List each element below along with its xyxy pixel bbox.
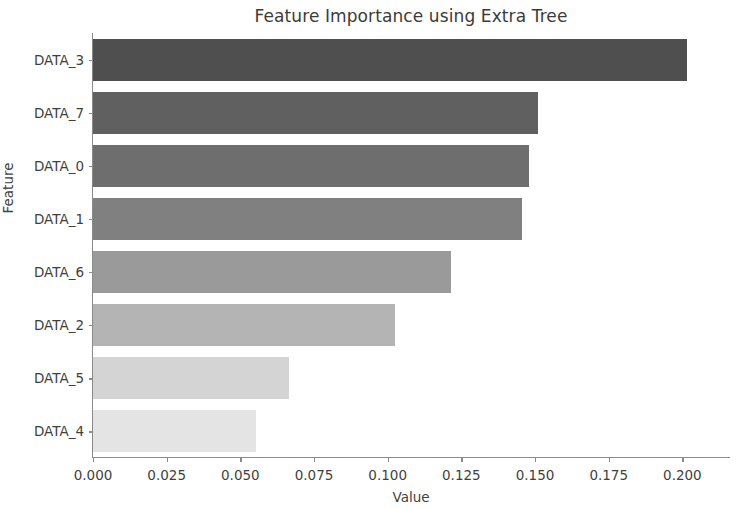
- y-tick-mark: [89, 166, 94, 167]
- x-tick-mark: [240, 457, 241, 462]
- y-tick-mark: [89, 378, 94, 379]
- x-tick-mark: [461, 457, 462, 462]
- bar-data_1: [93, 198, 522, 240]
- x-tick-mark: [93, 457, 94, 462]
- y-tick-label-data_1: DATA_1: [34, 211, 84, 227]
- bar-row: [93, 86, 730, 139]
- y-tick-mark: [89, 219, 94, 220]
- y-tick-label-data_5: DATA_5: [34, 370, 84, 386]
- x-tick-mark: [682, 457, 683, 462]
- x-tick-mark: [535, 457, 536, 462]
- y-tick-mark: [89, 272, 94, 273]
- y-axis-label-text: Feature: [0, 148, 16, 228]
- bar-data_0: [93, 145, 529, 187]
- plot-area: DATA_3DATA_7DATA_0DATA_1DATA_6DATA_2DATA…: [92, 33, 730, 458]
- y-tick-label-data_2: DATA_2: [34, 317, 84, 333]
- x-tick-mark: [609, 457, 610, 462]
- x-tick-label: 0.025: [147, 467, 186, 483]
- bar-row: [93, 246, 730, 299]
- x-tick-label: 0.175: [589, 467, 628, 483]
- bar-row: [93, 299, 730, 352]
- chart-figure: Feature Importance using Extra Tree DATA…: [0, 0, 742, 508]
- x-tick-mark: [314, 457, 315, 462]
- x-tick-label: 0.075: [295, 467, 334, 483]
- x-tick-label: 0.050: [221, 467, 260, 483]
- y-tick-mark: [89, 113, 94, 114]
- y-tick-label-data_4: DATA_4: [34, 423, 84, 439]
- bar-row: [93, 192, 730, 245]
- bar-data_2: [93, 304, 395, 346]
- y-axis-label: Feature: [0, 180, 18, 196]
- bar-data_5: [93, 357, 289, 399]
- bar-data_6: [93, 251, 451, 293]
- chart-title: Feature Importance using Extra Tree: [92, 6, 730, 26]
- bar-row: [93, 33, 730, 86]
- x-tick-mark: [167, 457, 168, 462]
- x-tick-label: 0.125: [442, 467, 481, 483]
- x-tick-mark: [388, 457, 389, 462]
- y-tick-mark: [89, 431, 94, 432]
- y-tick-label-data_7: DATA_7: [34, 105, 84, 121]
- y-tick-mark: [89, 60, 94, 61]
- bar-data_4: [93, 410, 256, 452]
- bar-data_7: [93, 92, 538, 134]
- y-tick-label-data_3: DATA_3: [34, 52, 84, 68]
- y-tick-mark: [89, 325, 94, 326]
- x-tick-label: 0.150: [516, 467, 555, 483]
- y-tick-label-data_0: DATA_0: [34, 158, 84, 174]
- x-tick-label: 0.000: [74, 467, 113, 483]
- x-axis-label: Value: [92, 489, 730, 505]
- bar-row: [93, 352, 730, 405]
- y-tick-label-data_6: DATA_6: [34, 264, 84, 280]
- bar-data_3: [93, 39, 687, 81]
- x-tick-label: 0.200: [663, 467, 702, 483]
- bar-row: [93, 405, 730, 458]
- x-tick-label: 0.100: [368, 467, 407, 483]
- bar-row: [93, 139, 730, 192]
